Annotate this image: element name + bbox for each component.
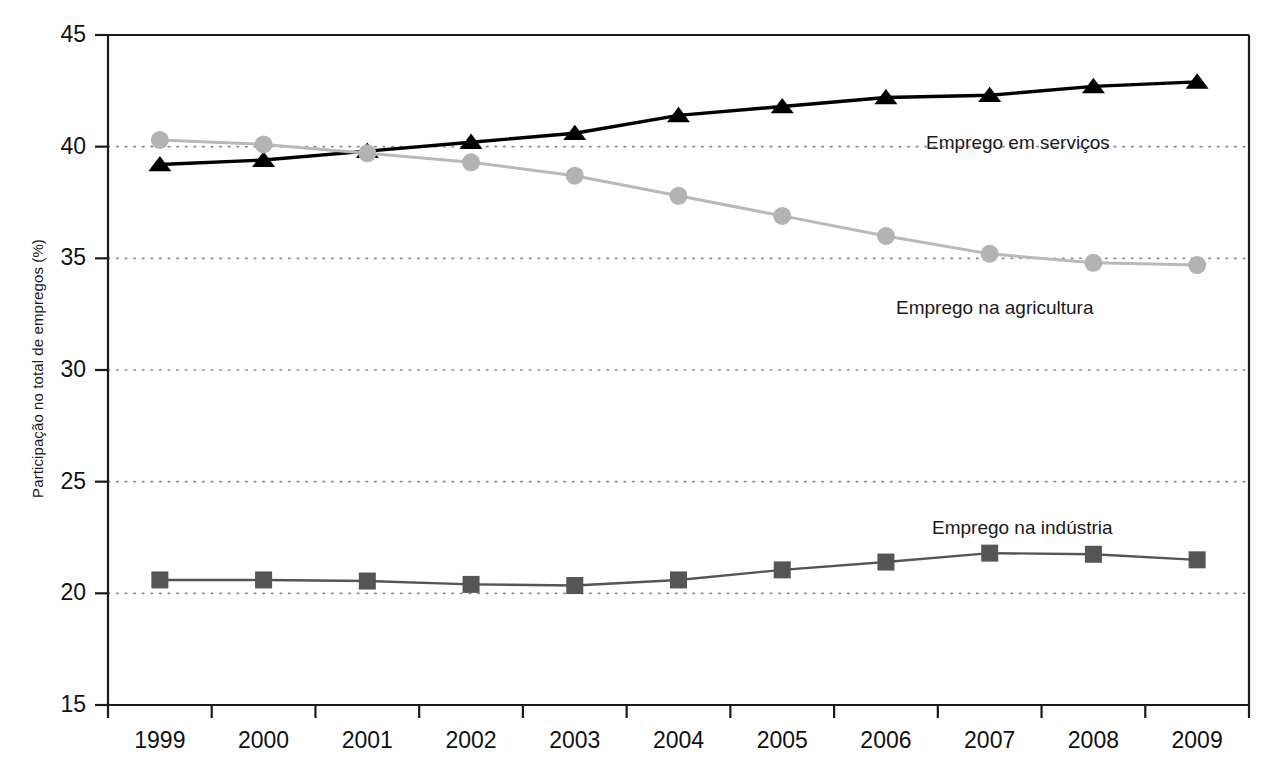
- data-point-marker: [1085, 546, 1102, 563]
- y-tick-label: 30: [40, 358, 86, 381]
- data-point-marker: [566, 167, 584, 185]
- x-tick-label-2003: 2003: [525, 729, 625, 752]
- data-point-marker: [151, 571, 168, 588]
- x-tick-label-2009: 2009: [1147, 729, 1247, 752]
- y-tick-label: 15: [40, 693, 86, 716]
- data-point-marker: [566, 577, 583, 594]
- x-tick-label-2006: 2006: [836, 729, 936, 752]
- data-point-marker: [1189, 551, 1206, 568]
- data-point-marker: [359, 573, 376, 590]
- y-tick-label: 45: [40, 23, 86, 46]
- data-point-marker: [358, 144, 376, 162]
- series-label-2: Emprego na indústria: [932, 518, 1113, 537]
- y-tick-label: 25: [40, 470, 86, 493]
- data-point-marker: [255, 571, 272, 588]
- y-tick-label: 20: [40, 581, 86, 604]
- data-point-marker: [877, 227, 895, 245]
- data-point-marker: [670, 187, 688, 205]
- series-label-0: Emprego em serviços: [926, 133, 1110, 152]
- y-tick-label: 40: [40, 135, 86, 158]
- x-tick-label-2007: 2007: [940, 729, 1040, 752]
- x-tick-label-2002: 2002: [421, 729, 521, 752]
- series-label-1: Emprego na agricultura: [896, 298, 1094, 317]
- x-axis-ticks: [108, 705, 1249, 718]
- data-point-marker: [255, 135, 273, 153]
- data-point-marker: [774, 561, 791, 578]
- x-tick-label-2008: 2008: [1043, 729, 1143, 752]
- data-point-marker: [1084, 254, 1102, 272]
- plot-area: [0, 0, 1272, 767]
- chart-figure: Participação no total de empregos (%) 15…: [0, 0, 1272, 767]
- data-point-marker: [981, 545, 998, 562]
- data-point-marker: [462, 153, 480, 171]
- x-tick-label-1999: 1999: [110, 729, 210, 752]
- data-point-marker: [773, 207, 791, 225]
- x-tick-label-2005: 2005: [732, 729, 832, 752]
- data-point-marker: [981, 245, 999, 263]
- data-point-marker: [670, 571, 687, 588]
- y-tick-label: 35: [40, 246, 86, 269]
- x-tick-label-2004: 2004: [629, 729, 729, 752]
- y-axis-ticks: [95, 35, 108, 705]
- x-tick-label-2001: 2001: [317, 729, 417, 752]
- data-point-marker: [877, 554, 894, 571]
- data-point-marker: [151, 131, 169, 149]
- x-tick-label-2000: 2000: [214, 729, 314, 752]
- data-point-marker: [1188, 256, 1206, 274]
- data-point-marker: [463, 576, 480, 593]
